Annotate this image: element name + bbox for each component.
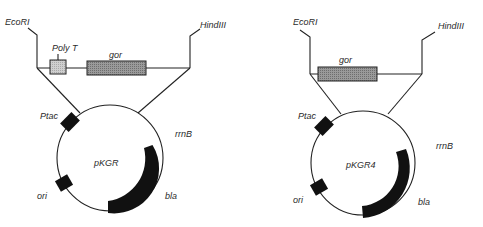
ori-segment: [310, 178, 328, 195]
ecori-site-marker: [28, 28, 37, 68]
gor-label: gor: [339, 55, 353, 65]
construct-pkgr4: EcoRI HindIII gor Ptac ori rrnB bla pKGR…: [293, 17, 465, 218]
gor-gene-box: [318, 67, 377, 81]
bla-label: bla: [165, 191, 177, 201]
insert-connector-left: [37, 68, 80, 113]
ecori-site-marker: [300, 30, 310, 74]
ori-label: ori: [293, 195, 304, 205]
plasmid-name: pKGR: [93, 158, 119, 168]
ecori-site-label: EcoRI: [5, 17, 30, 27]
hindiii-site-label: HindIII: [200, 20, 227, 30]
ori-label: ori: [37, 191, 48, 201]
rrnb-label: rrnB: [436, 141, 453, 151]
hindiii-site-marker: [190, 29, 200, 68]
hindiii-site-marker: [422, 32, 435, 74]
plasmid-name: pKGR4: [345, 160, 376, 170]
ptac-segment: [314, 116, 334, 136]
ptac-label: Ptac: [40, 111, 59, 121]
ptac-label: Ptac: [298, 111, 317, 121]
gor-gene-box: [87, 61, 146, 75]
ecori-site-label: EcoRI: [293, 17, 318, 27]
ori-segment: [55, 174, 73, 191]
insert-connector-right: [388, 74, 422, 114]
bla-label: bla: [418, 197, 430, 207]
hindiii-site-label: HindIII: [438, 21, 465, 31]
ptac-segment: [60, 112, 80, 132]
poly-t-label: Poly T: [52, 43, 79, 53]
plasmid-maps-figure: EcoRI HindIII Poly T gor Ptac ori rrnB b…: [0, 0, 483, 227]
rrnb-label: rrnB: [175, 129, 192, 139]
bla-segment: [108, 145, 159, 213]
construct-pkgr: EcoRI HindIII Poly T gor Ptac ori rrnB b…: [5, 17, 227, 213]
poly-t-box: [50, 60, 66, 74]
gor-label: gor: [109, 50, 123, 60]
